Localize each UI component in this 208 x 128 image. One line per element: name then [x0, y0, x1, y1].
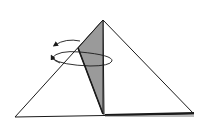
origami-diagram: [0, 0, 208, 128]
main-triangle: [15, 20, 194, 117]
diagram-svg: [0, 0, 208, 128]
